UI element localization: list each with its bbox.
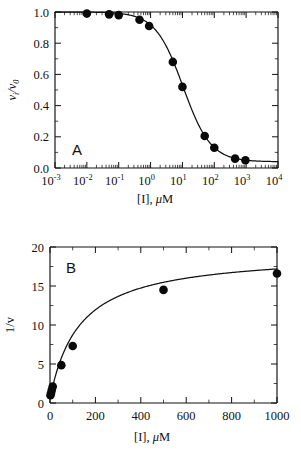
svg-text:[I], μM: [I], μM [137, 192, 173, 206]
panel-b-y-axis-title: 1/v [3, 316, 17, 333]
panel-a-point-8 [210, 143, 219, 152]
panel-a-ylabel-sub-0: 0 [12, 79, 21, 84]
panel-a-point-6 [178, 83, 187, 92]
panel-b-xtick-800: 800 [222, 409, 241, 423]
panel-b-x-axis-title: [I], μM [134, 430, 170, 444]
panel-b-svg: 02004006008001000 05101520 B [I], μM 1/v [0, 229, 301, 459]
panel-b-ticks [50, 247, 277, 403]
panel-b-data-points [46, 269, 281, 399]
panel-b-y-tick-labels: 05101520 [32, 241, 45, 411]
panel-a-point-10 [241, 156, 250, 165]
panel-a: 10-310-210-1100101102103104 1.00.80.60.4… [0, 0, 301, 229]
panel-b-ytick-20: 20 [32, 241, 45, 255]
panel-a-y-axis-title: vi/v0 [5, 79, 21, 101]
panel-b-xtick-200: 200 [86, 409, 105, 423]
panel-b-point-4 [57, 361, 66, 370]
panel-a-ytick-0.4: 0.4 [33, 99, 49, 113]
panel-a-xtick-4: 104 [266, 173, 284, 188]
panel-b-axes [50, 247, 277, 403]
panel-b-x-tick-labels: 02004006008001000 [47, 409, 290, 423]
panel-b-ytick-10: 10 [32, 319, 45, 333]
panel-b-ytick-0: 0 [38, 397, 44, 411]
panel-a-axes [55, 12, 278, 168]
panel-a-ytick-0.8: 0.8 [33, 37, 49, 51]
panel-a-xlabel-tail: M [162, 192, 173, 206]
panel-a-xtick-2: 102 [202, 173, 219, 188]
panel-b-xtick-1000: 1000 [265, 409, 290, 423]
panel-a-point-0 [83, 9, 92, 18]
panel-a-point-2 [114, 11, 123, 20]
panel-a-y-tick-labels: 1.00.80.60.40.20.0 [33, 6, 49, 176]
panel-b-ylabel: 1/v [3, 316, 17, 333]
figure-container: 10-310-210-1100101102103104 1.00.80.60.4… [0, 0, 301, 459]
panel-a-point-9 [231, 154, 240, 163]
svg-text:vi/v0: vi/v0 [5, 79, 21, 101]
panel-a-data-points [83, 9, 250, 164]
panel-a-xtick-3: 103 [234, 173, 251, 188]
panel-a-ylabel-slash: /v [5, 83, 19, 93]
svg-text:[I], μM: [I], μM [134, 430, 170, 444]
panel-b: 02004006008001000 05101520 B [I], μM 1/v [0, 229, 301, 459]
panel-a-svg: 10-310-210-1100101102103104 1.00.80.60.4… [0, 0, 301, 229]
panel-a-xlabel-main: [I], [137, 192, 156, 206]
panel-a-fit-curve [55, 12, 278, 162]
panel-b-xtick-0: 0 [47, 409, 53, 423]
panel-a-xtick--1: 10-1 [105, 173, 124, 188]
panel-b-point-7 [273, 269, 282, 278]
panel-a-point-3 [135, 15, 144, 24]
panel-b-ytick-5: 5 [38, 358, 44, 372]
panel-a-xlabel-mu: μ [155, 192, 162, 206]
panel-b-xlabel-main: [I], [134, 430, 153, 444]
panel-a-point-7 [200, 132, 209, 141]
panel-b-xlabel-tail: M [159, 430, 170, 444]
panel-a-xtick--2: 10-2 [73, 173, 92, 188]
panel-b-point-5 [68, 342, 77, 351]
panel-a-ytick-0.0: 0.0 [33, 162, 49, 176]
panel-a-point-4 [145, 22, 154, 31]
panel-a-x-tick-labels: 10-310-210-1100101102103104 [41, 173, 283, 188]
panel-b-xlabel-mu: μ [152, 430, 159, 444]
panel-a-x-axis-title: [I], μM [137, 192, 173, 206]
panel-b-point-3 [48, 382, 57, 391]
panel-a-xtick-0: 100 [138, 173, 155, 188]
panel-a-ytick-0.6: 0.6 [33, 68, 49, 82]
panel-a-letter: A [72, 141, 82, 158]
panel-a-ticks [55, 12, 278, 168]
panel-b-ytick-15: 15 [32, 280, 45, 294]
panel-a-point-5 [169, 58, 178, 67]
panel-a-ytick-1.0: 1.0 [33, 6, 49, 20]
panel-b-letter: B [66, 259, 76, 276]
panel-b-xtick-400: 400 [131, 409, 150, 423]
panel-b-point-6 [159, 286, 168, 295]
panel-a-point-1 [105, 10, 114, 19]
panel-a-ytick-0.2: 0.2 [33, 130, 49, 144]
panel-a-xtick-1: 101 [170, 173, 187, 188]
panel-b-xtick-600: 600 [177, 409, 196, 423]
